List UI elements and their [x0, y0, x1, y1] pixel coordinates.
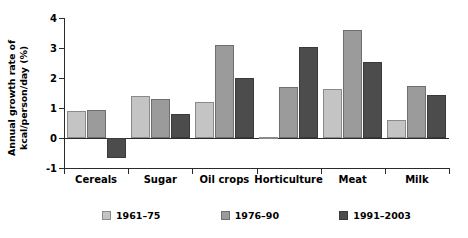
x-axis-tick-mark: [449, 168, 450, 174]
x-axis-category-label: Sugar: [144, 174, 177, 185]
x-axis-category-label: Oil crops: [200, 174, 250, 185]
bar: [407, 86, 426, 139]
bar: [215, 45, 234, 138]
bar-group: [385, 18, 449, 168]
bar: [107, 138, 126, 158]
legend-label: 1961–75: [116, 210, 160, 221]
legend-item: 1976–90: [221, 210, 279, 221]
x-axis-category-label: Horticulture: [254, 174, 322, 185]
chart-legend: 1961–751976–901991–2003: [64, 205, 449, 225]
y-axis-tick-label: 2: [50, 73, 57, 84]
bar: [387, 120, 406, 138]
x-axis-category-label: Milk: [405, 174, 428, 185]
x-axis-tick-mark: [128, 168, 129, 174]
bar: [67, 111, 86, 138]
bar-group: [192, 18, 256, 168]
y-axis-title: Annual growth rate of kcal/person/day (%…: [6, 18, 46, 178]
bar-group: [128, 18, 192, 168]
bar-group: [257, 18, 321, 168]
bar: [363, 62, 382, 139]
bar: [343, 30, 362, 138]
bar-chart-figure: Annual growth rate of kcal/person/day (%…: [0, 0, 468, 238]
bar: [87, 110, 106, 139]
x-axis-tick-mark: [64, 168, 65, 174]
legend-label: 1976–90: [235, 210, 279, 221]
legend-swatch-1991-2003: [339, 211, 348, 220]
legend-swatch-1961-75: [102, 211, 111, 220]
plot-area: -101234 CerealsSugarOil cropsHorticultur…: [64, 18, 449, 168]
bar: [195, 102, 214, 138]
bar: [151, 99, 170, 138]
legend-item: 1961–75: [102, 210, 160, 221]
x-axis-tick-mark: [385, 168, 386, 174]
bar: [299, 47, 318, 139]
bar: [323, 89, 342, 139]
bar: [235, 78, 254, 138]
bar: [427, 95, 446, 139]
bar: [131, 96, 150, 138]
legend-label: 1991–2003: [353, 210, 411, 221]
y-axis-tick-label: 0: [50, 133, 57, 144]
x-axis-tick-mark: [192, 168, 193, 174]
y-axis-tick-label: 1: [50, 103, 57, 114]
bar: [259, 137, 278, 139]
y-axis-tick-label: 3: [50, 43, 57, 54]
bar-group: [321, 18, 385, 168]
y-axis-tick-label: -1: [46, 163, 57, 174]
bar: [171, 114, 190, 138]
bar-group: [64, 18, 128, 168]
x-axis-category-label: Cereals: [75, 174, 117, 185]
legend-item: 1991–2003: [339, 210, 411, 221]
y-axis-tick-label: 4: [50, 13, 57, 24]
legend-swatch-1976-90: [221, 211, 230, 220]
x-axis-category-label: Meat: [339, 174, 367, 185]
bar: [279, 87, 298, 138]
